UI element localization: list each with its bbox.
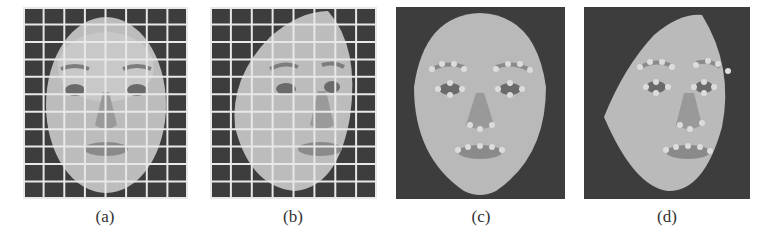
panel-a-caption: (a) [75, 207, 135, 227]
panel-d-caption: (d) [637, 207, 697, 227]
panel-c-caption: (c) [451, 207, 511, 227]
panel-a-image [23, 7, 188, 199]
panel-b-caption: (b) [263, 207, 323, 227]
panel-c-image [396, 7, 565, 199]
face-landmarks-rotated-image [584, 7, 750, 199]
panel-d-image [584, 7, 750, 199]
face-landmarks-frontal-image [396, 7, 565, 199]
panel-b-image [210, 7, 377, 199]
face-grid-frontal-image [23, 7, 188, 199]
face-grid-warped-image [210, 7, 377, 199]
